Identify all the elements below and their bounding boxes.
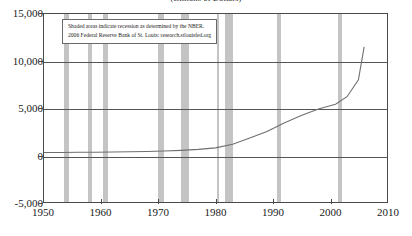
x-axis-tick-label: 1980	[205, 206, 227, 218]
annotation-line-1: Shaded areas indicate recession as deter…	[68, 22, 211, 31]
x-axis-tick-mark	[216, 199, 217, 204]
x-axis-tick-label: 2000	[320, 206, 342, 218]
x-axis-tick-label: 2010	[377, 206, 399, 218]
x-axis-tick-label: 1970	[147, 206, 169, 218]
x-axis-tick-mark	[158, 199, 159, 204]
recession-annotation: Shaded areas indicate recession as deter…	[62, 19, 217, 44]
x-axis-tick-label: 1960	[90, 206, 112, 218]
x-axis-tick-mark	[273, 199, 274, 204]
x-axis-tick-mark	[101, 199, 102, 204]
x-axis-tick-mark	[331, 199, 332, 204]
x-axis-tick-label: 1990	[262, 206, 284, 218]
chart-screenshot: (Billions of Dollars) -5,00005,00010,000…	[0, 0, 412, 236]
x-axis-tick-label: 1950	[32, 206, 54, 218]
annotation-line-2: 2006 Federal Reserve Bank of St. Louis: …	[68, 31, 211, 40]
